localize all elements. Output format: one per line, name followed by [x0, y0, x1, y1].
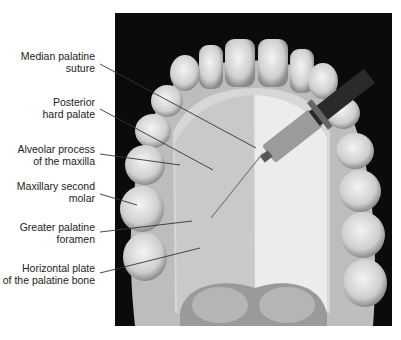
label-posterior-hard-palate: Posterior hard palate	[42, 96, 95, 120]
label-greater-palatine-foramen: Greater palatine foramen	[20, 221, 95, 245]
label-median-palatine-suture: Median palatine suture	[21, 50, 95, 74]
label-line: Median palatine	[21, 50, 95, 62]
maxillary-arch-illustration	[115, 13, 392, 326]
label-line: foramen	[20, 233, 95, 245]
label-line: molar	[17, 192, 95, 204]
label-line: suture	[21, 62, 95, 74]
label-horizontal-plate: Horizontal plate of the palatine bone	[3, 262, 95, 286]
label-alveolar-process: Alveolar process of the maxilla	[17, 143, 95, 167]
label-line: of the maxilla	[17, 155, 95, 167]
label-line: Maxillary second	[17, 180, 95, 192]
label-line: of the palatine bone	[3, 274, 95, 286]
palate-photograph	[115, 13, 392, 326]
label-line: hard palate	[42, 108, 95, 120]
label-line: Greater palatine	[20, 221, 95, 233]
label-maxillary-second-molar: Maxillary second molar	[17, 180, 95, 204]
label-line: Posterior	[42, 96, 95, 108]
label-line: Alveolar process	[17, 143, 95, 155]
label-line: Horizontal plate	[3, 262, 95, 274]
